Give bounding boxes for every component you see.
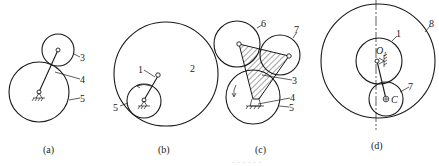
label-O1: O1	[376, 45, 387, 58]
label-4: 4	[80, 74, 85, 85]
triangular-carrier-3	[239, 44, 289, 99]
caption-b: (b)	[158, 144, 170, 156]
label-3: 3	[292, 75, 297, 86]
panel-b: 1 2 5 (b)	[113, 22, 218, 156]
label-1: 1	[396, 28, 401, 39]
ground-pivot-icon	[32, 90, 45, 101]
label-7: 7	[408, 81, 413, 92]
label-7: 7	[294, 24, 299, 35]
panel-d: 8 1 O1 7 C (d)	[321, 0, 435, 152]
pin-icon	[237, 42, 241, 46]
arm-1	[144, 76, 158, 100]
pin-C-icon	[383, 96, 389, 102]
planetary-gear-diagrams: 3 4 5 (a) 1 2 5 (b)	[0, 0, 439, 166]
label-5: 5	[80, 93, 85, 104]
panel-a: 3 4 5 (a)	[9, 34, 85, 156]
label-5: 5	[113, 102, 118, 113]
panel-c: 6 7 3 4 5 (c)	[214, 18, 300, 156]
label-1: 1	[138, 64, 143, 75]
label-C: C	[391, 94, 398, 105]
caption-c: (c)	[255, 144, 266, 156]
label-6: 6	[261, 18, 266, 29]
pin-icon	[156, 73, 160, 77]
bottom-caption-partial: · · · · · ·	[232, 157, 261, 166]
label-2: 2	[190, 63, 195, 74]
label-3: 3	[80, 52, 85, 63]
label-8: 8	[429, 18, 434, 29]
arm-4	[39, 50, 58, 92]
caption-a: (a)	[43, 144, 54, 156]
caption-d: (d)	[371, 140, 383, 152]
pin-icon	[287, 54, 291, 58]
ground-pivot-icon	[246, 99, 264, 109]
ground-pivot-icon	[138, 98, 150, 109]
arm-link	[377, 61, 386, 99]
pin-icon	[56, 48, 60, 52]
label-5: 5	[289, 102, 294, 113]
